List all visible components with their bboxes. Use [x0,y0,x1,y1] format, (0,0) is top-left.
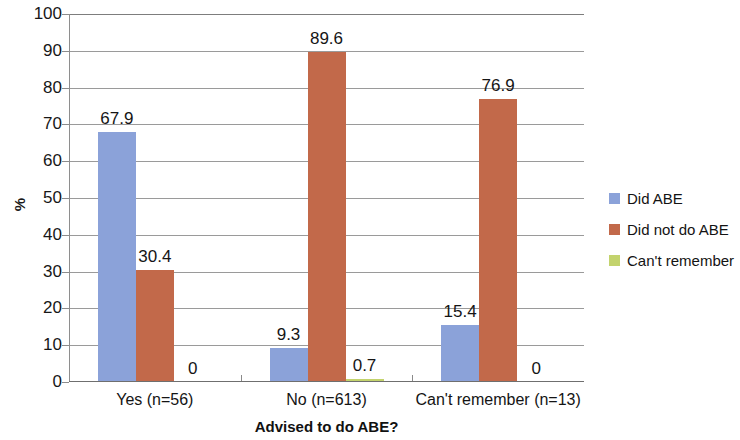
y-tick-mark [62,272,69,273]
gridline [69,14,584,15]
bar-value-label: 15.4 [427,303,493,321]
y-axis-line [69,14,70,382]
y-tick-label: 30 [28,263,62,280]
y-tick-mark [62,235,69,236]
bar [270,348,308,382]
y-tick-label: 0 [28,373,62,390]
y-tick-label: 80 [28,79,62,96]
bar-value-label: 0 [160,360,226,378]
bar [479,99,517,382]
bar-value-label: 67.9 [84,110,150,128]
legend-label: Did ABE [627,191,683,206]
legend-swatch-icon [609,255,620,266]
plot-area [69,14,584,382]
y-tick-label: 70 [28,115,62,132]
legend-swatch-icon [609,193,620,204]
category-label: Yes (n=56) [69,391,241,409]
y-tick-mark [62,345,69,346]
y-tick-label: 60 [28,152,62,169]
y-tick-mark [62,51,69,52]
category-label: Can't remember (n=13) [412,391,584,409]
legend-label: Did not do ABE [627,222,729,237]
y-tick-mark [62,124,69,125]
y-tick-label: 20 [28,299,62,316]
bar-chart: % 1009080706050403020100 67.930.409.389.… [0,0,740,440]
legend-item[interactable]: Can't remember [609,245,734,276]
legend-item[interactable]: Did not do ABE [609,214,734,245]
y-tick-mark [62,308,69,309]
legend-item[interactable]: Did ABE [609,183,734,214]
y-tick-mark [62,382,69,383]
y-tick-mark [62,88,69,89]
chart-legend: Did ABEDid not do ABECan't remember [609,183,734,276]
y-tick-label: 90 [28,42,62,59]
bar-value-label: 9.3 [256,326,322,344]
x-axis-line [69,381,584,382]
y-tick-label: 50 [28,189,62,206]
bar-value-label: 0 [503,360,569,378]
category-label: No (n=613) [241,391,413,409]
y-tick-mark [62,198,69,199]
y-tick-mark [62,14,69,15]
y-tick-label: 100 [28,5,62,22]
y-tick-label: 10 [28,336,62,353]
bar-value-label: 30.4 [122,248,188,266]
bar-value-label: 89.6 [294,30,360,48]
legend-swatch-icon [609,224,620,235]
y-tick-mark [62,161,69,162]
x-axis-title: Advised to do ABE? [69,418,584,435]
legend-label: Can't remember [627,253,734,268]
bar [441,325,479,382]
y-axis-title: % [11,190,28,220]
bar-value-label: 76.9 [465,77,531,95]
bar-value-label: 0.7 [332,357,398,375]
y-tick-label: 40 [28,226,62,243]
